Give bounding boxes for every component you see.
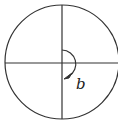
arrowhead-icon	[64, 73, 72, 79]
angle-label: b	[76, 75, 86, 93]
circle-diagram: b	[0, 0, 118, 122]
